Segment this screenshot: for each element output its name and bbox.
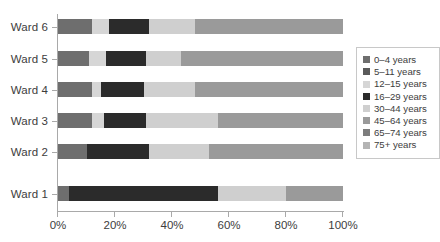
bar-segment (286, 186, 343, 201)
legend-item[interactable]: 75+ years (363, 139, 435, 151)
bar-segment (109, 19, 149, 34)
y-axis-tick (52, 121, 57, 122)
x-axis-tick-label: 0% (50, 219, 67, 231)
legend-label: 65–74 years (374, 128, 427, 138)
y-axis-label-ward-2: Ward 2 (11, 146, 48, 158)
x-axis-tick (342, 212, 343, 217)
bar-row (58, 19, 343, 34)
bar-segment (146, 51, 180, 66)
legend-label: 12–15 years (374, 79, 427, 89)
bar-segment (195, 82, 343, 97)
bar-row (58, 82, 343, 97)
x-axis-line (57, 211, 344, 212)
bar-segment (149, 144, 209, 159)
legend-item-list: 0–4 years5–11 years12–15 years16–29 year… (363, 54, 435, 151)
y-axis-tick (52, 90, 57, 91)
bar-segment (146, 113, 217, 128)
y-axis-label-ward-5: Ward 5 (11, 53, 48, 65)
bar-segment (92, 19, 109, 34)
legend-swatch-icon (363, 105, 370, 112)
bar-segment (209, 144, 343, 159)
bar-row (58, 51, 343, 66)
bar-segment (106, 51, 146, 66)
legend-label: 0–4 years (374, 55, 416, 65)
y-axis-tick (52, 194, 57, 195)
bar-segment (58, 113, 92, 128)
bar-segment (101, 82, 144, 97)
legend-label: 30–44 years (374, 104, 427, 114)
bar-segment (181, 51, 343, 66)
bar-segment (58, 144, 87, 159)
legend-label: 16–29 years (374, 92, 427, 102)
legend-item[interactable]: 16–29 years (363, 91, 435, 103)
legend-item[interactable]: 5–11 years (363, 66, 435, 78)
y-axis-label-ward-4: Ward 4 (11, 84, 48, 96)
y-axis-label-ward-1: Ward 1 (11, 188, 48, 200)
bar-row (58, 186, 343, 201)
x-axis-tick (228, 212, 229, 217)
legend-swatch-icon (363, 129, 370, 136)
x-axis-tick (171, 212, 172, 217)
bar-segment (218, 186, 286, 201)
legend-swatch-icon (363, 56, 370, 63)
y-axis-label-ward-6: Ward 6 (11, 21, 48, 33)
legend-label: 75+ years (374, 140, 416, 150)
legend-item[interactable]: 45–64 years (363, 115, 435, 127)
bar-segment (58, 51, 89, 66)
x-axis-tick (57, 212, 58, 217)
bar-segment (87, 144, 150, 159)
legend-item[interactable]: 65–74 years (363, 127, 435, 139)
bar-segment (144, 82, 195, 97)
legend-swatch-icon (363, 117, 370, 124)
legend-item[interactable]: 30–44 years (363, 103, 435, 115)
stacked-bar-chart: Ward 1Ward 2Ward 3Ward 4Ward 5Ward 6 0%2… (0, 0, 440, 242)
legend-label: 45–64 years (374, 116, 427, 126)
x-axis-tick (285, 212, 286, 217)
chart-legend: 0–4 years5–11 years12–15 years16–29 year… (356, 47, 440, 159)
x-axis-tick-label: 80% (274, 219, 297, 231)
bar-segment (92, 113, 103, 128)
bar-segment (58, 186, 69, 201)
legend-swatch-icon (363, 142, 370, 149)
bar-segment (218, 113, 343, 128)
bar-segment (104, 113, 147, 128)
x-axis-tick-label: 60% (217, 219, 240, 231)
legend-swatch-icon (363, 68, 370, 75)
legend-item[interactable]: 12–15 years (363, 78, 435, 90)
legend-swatch-icon (363, 81, 370, 88)
x-axis-tick-label: 40% (160, 219, 183, 231)
x-axis-tick-label: 100% (328, 219, 357, 231)
y-axis-tick (52, 152, 57, 153)
bar-segment (92, 82, 101, 97)
legend-swatch-icon (363, 93, 370, 100)
bar-segment (149, 19, 195, 34)
bar-segment (58, 19, 92, 34)
bar-segment (89, 51, 106, 66)
x-axis-tick (114, 212, 115, 217)
bar-row (58, 113, 343, 128)
legend-item[interactable]: 0–4 years (363, 54, 435, 66)
y-axis-tick (52, 59, 57, 60)
x-axis-tick-label: 20% (103, 219, 126, 231)
bar-segment (58, 82, 92, 97)
bar-segment (195, 19, 343, 34)
y-axis-tick (52, 27, 57, 28)
legend-label: 5–11 years (374, 67, 421, 77)
y-axis-category-labels: Ward 1Ward 2Ward 3Ward 4Ward 5Ward 6 (0, 0, 55, 212)
y-axis-label-ward-3: Ward 3 (11, 115, 48, 127)
bar-segment (69, 186, 217, 201)
bar-row (58, 144, 343, 159)
